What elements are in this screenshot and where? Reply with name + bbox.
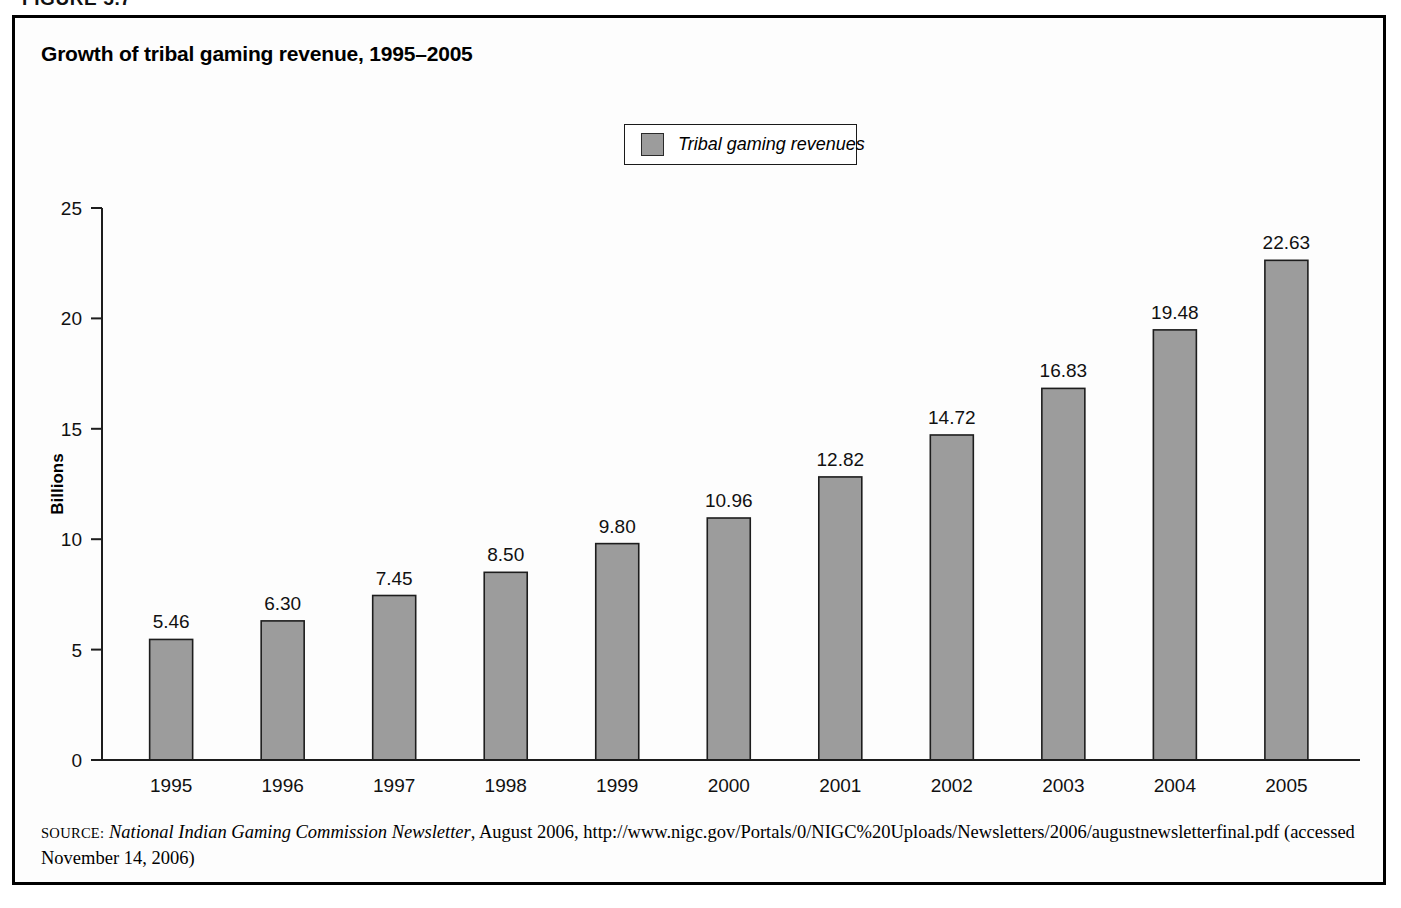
bar-value-label-2003: 16.83 <box>1040 360 1088 381</box>
y-axis-tick-label: 0 <box>71 750 82 771</box>
bar-1996 <box>261 621 304 760</box>
bar-2005 <box>1265 260 1308 760</box>
figure-frame: Growth of tribal gaming revenue, 1995–20… <box>12 15 1386 885</box>
plot-area: 0510152025Billions5.4619956.3019967.4519… <box>15 18 1389 888</box>
x-axis-tick-label-2000: 2000 <box>708 775 750 796</box>
bar-2000 <box>707 518 750 760</box>
bar-1997 <box>373 596 416 760</box>
bar-2002 <box>930 435 973 760</box>
bar-value-label-1999: 9.80 <box>599 516 636 537</box>
figure-number: FIGURE 5.7 <box>22 0 131 10</box>
x-axis-tick-label-1995: 1995 <box>150 775 192 796</box>
bar-1995 <box>150 639 193 760</box>
bar-value-label-2005: 22.63 <box>1263 232 1311 253</box>
bar-value-label-2001: 12.82 <box>817 449 865 470</box>
y-axis-tick-label: 20 <box>61 308 82 329</box>
source-note: SOURCE: National Indian Gaming Commissio… <box>41 820 1361 871</box>
y-axis-tick-label: 15 <box>61 419 82 440</box>
y-axis-tick-label: 25 <box>61 198 82 219</box>
x-axis-tick-label-1998: 1998 <box>485 775 527 796</box>
x-axis-tick-label-2005: 2005 <box>1265 775 1307 796</box>
y-axis-title: Billions <box>48 453 67 514</box>
source-publication: National Indian Gaming Commission Newsle… <box>109 822 471 842</box>
x-axis-tick-label-1997: 1997 <box>373 775 415 796</box>
bar-value-label-2002: 14.72 <box>928 407 976 428</box>
source-label: SOURCE: <box>41 825 104 841</box>
bar-chart-svg: 0510152025Billions5.4619956.3019967.4519… <box>15 18 1389 888</box>
bar-value-label-2000: 10.96 <box>705 490 753 511</box>
x-axis-tick-label-1996: 1996 <box>262 775 304 796</box>
bar-2004 <box>1153 330 1196 760</box>
bar-2001 <box>819 477 862 760</box>
bar-value-label-1995: 5.46 <box>153 611 190 632</box>
y-axis-tick-label: 10 <box>61 529 82 550</box>
bar-value-label-1997: 7.45 <box>376 568 413 589</box>
bar-1998 <box>484 572 527 760</box>
labels-group: 0510152025Billions5.4619956.3019967.4519… <box>48 198 1310 796</box>
x-axis-tick-label-2003: 2003 <box>1042 775 1084 796</box>
x-axis-tick-label-1999: 1999 <box>596 775 638 796</box>
bar-value-label-2004: 19.48 <box>1151 302 1199 323</box>
y-axis-tick-label: 5 <box>71 640 82 661</box>
x-axis-tick-label-2002: 2002 <box>931 775 973 796</box>
bar-value-label-1998: 8.50 <box>487 544 524 565</box>
x-axis-tick-label-2004: 2004 <box>1154 775 1197 796</box>
bar-1999 <box>596 544 639 760</box>
x-axis-tick-label-2001: 2001 <box>819 775 861 796</box>
bar-2003 <box>1042 388 1085 760</box>
bar-value-label-1996: 6.30 <box>264 593 301 614</box>
